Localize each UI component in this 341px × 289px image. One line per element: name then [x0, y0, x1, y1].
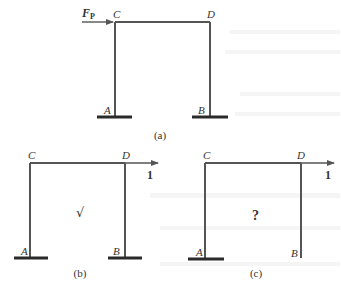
node-label-a: A [195, 246, 203, 258]
caption-b: (b) [74, 267, 87, 280]
node-label-b: B [198, 104, 205, 116]
load-label-fp: FP [81, 6, 95, 21]
background-bleed-through [150, 30, 340, 266]
panel-c: C D A B 1 ? (c) [188, 149, 334, 280]
question-mark-icon: ? [252, 208, 259, 223]
node-label-a: A [20, 245, 28, 257]
node-label-b: B [291, 247, 298, 259]
check-mark-icon: √ [76, 205, 85, 220]
node-label-a: A [103, 104, 111, 116]
node-label-c: C [113, 8, 121, 20]
panel-a: FP C D A B (a) [81, 6, 228, 142]
caption-a: (a) [154, 129, 167, 142]
node-label-c: C [203, 149, 211, 161]
panel-b: C D A B 1 √ (b) [14, 149, 158, 280]
node-label-d: D [121, 149, 130, 161]
node-label-b: B [113, 245, 120, 257]
caption-c: (c) [250, 267, 263, 280]
frame-diagram: FP C D A B (a) C D A B 1 √ (b) C D A B 1… [0, 0, 341, 289]
unit-load-label: 1 [325, 168, 331, 182]
unit-load-label: 1 [147, 168, 153, 182]
node-label-d: D [206, 8, 215, 20]
node-label-c: C [28, 149, 36, 161]
node-label-d: D [296, 149, 305, 161]
